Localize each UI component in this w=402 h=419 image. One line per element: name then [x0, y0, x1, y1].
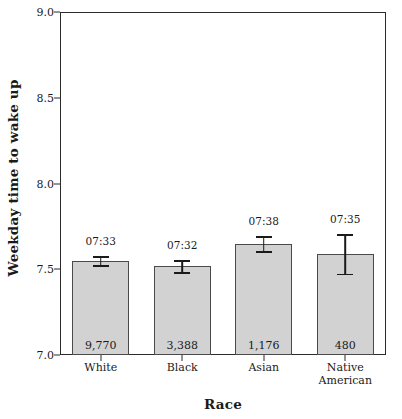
bar-value-label: 07:35 [303, 213, 388, 225]
x-tick-label-line: Native [319, 362, 372, 375]
y-tick-label: 7.0 [20, 349, 54, 362]
bar-rect[interactable]: 9,770 [72, 261, 129, 355]
bar-group[interactable]: 48007:35 [317, 12, 374, 355]
bar-rect[interactable]: 3,388 [154, 266, 211, 355]
error-bar-cap-upper [174, 260, 190, 262]
error-bar-stem [263, 236, 265, 251]
error-bar-cap-lower [93, 265, 109, 267]
bar-group[interactable]: 1,17607:38 [235, 12, 292, 355]
error-bar-cap-lower [174, 272, 190, 274]
y-tick-mark [54, 269, 60, 270]
bar-count-label: 3,388 [155, 339, 210, 352]
bar-count-label: 1,176 [236, 339, 291, 352]
bar-chart-figure: Weekday time to wake up 7.07.58.08.59.0 … [0, 0, 402, 419]
x-tick-label: Black [167, 362, 198, 375]
error-bar-cap-lower [256, 251, 272, 253]
y-axis-tick-labels: 7.07.58.08.59.0 [14, 0, 54, 419]
y-tick-label: 8.5 [20, 91, 54, 104]
y-tick-label: 7.5 [20, 263, 54, 276]
bar-value-label: 07:32 [140, 239, 225, 251]
x-tick-label-line: Asian [248, 362, 279, 375]
bars-layer: 9,77007:333,38807:321,17607:3848007:35 [60, 12, 386, 355]
error-bar-cap-upper [93, 256, 109, 258]
y-tick-mark [54, 183, 60, 184]
bar-count-label: 9,770 [73, 339, 128, 352]
x-axis-title: Race [60, 396, 386, 412]
error-bar-stem [344, 234, 346, 273]
bar-count-label: 480 [318, 339, 373, 352]
x-axis-tick-labels: WhiteBlackAsianNativeAmerican [60, 355, 386, 400]
bar-group[interactable]: 9,77007:33 [72, 12, 129, 355]
x-tick-label: NativeAmerican [319, 362, 372, 387]
y-tick-mark [54, 355, 60, 356]
error-bar-cap-lower [337, 274, 353, 276]
y-tick-mark [54, 97, 60, 98]
bar-group[interactable]: 3,38807:32 [154, 12, 211, 355]
x-tick-label-line: White [84, 362, 117, 375]
y-tick-label: 9.0 [20, 6, 54, 19]
y-tick-mark [54, 12, 60, 13]
error-bar-stem [181, 260, 183, 272]
x-tick-label-line: Black [167, 362, 198, 375]
y-tick-label: 8.0 [20, 177, 54, 190]
x-tick-label-line: American [319, 375, 372, 388]
x-tick-label: Asian [248, 362, 279, 375]
error-bar-cap-upper [337, 234, 353, 236]
error-bar-cap-upper [256, 236, 272, 238]
bar-value-label: 07:33 [58, 235, 143, 247]
bar-rect[interactable]: 1,176 [235, 244, 292, 355]
x-tick-label: White [84, 362, 117, 375]
bar-value-label: 07:38 [221, 215, 306, 227]
